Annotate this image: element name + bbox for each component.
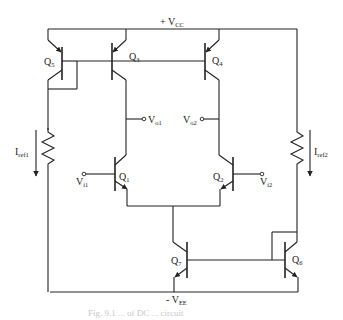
resistor-ref1: [42, 128, 54, 292]
iref1-label: Iref1: [15, 146, 29, 158]
iref2-label: Iref2: [314, 146, 328, 158]
emitter-tail-wire: [127, 206, 220, 242]
vee-rail: [50, 280, 298, 292]
q6-label: Q6: [292, 254, 303, 266]
resistor-ref2: [291, 128, 303, 232]
vi2-label: Vi2: [260, 176, 272, 188]
vo1-label: Vo1: [148, 114, 162, 126]
vcc-label: + VCC: [160, 16, 184, 28]
transistor-q3: [112, 29, 126, 155]
q7-label: Q7: [171, 255, 182, 267]
q4-label: Q4: [212, 55, 223, 67]
figure-caption: Fig. 9.1 ... of DC ... circuit: [88, 308, 184, 318]
transistor-q4: [205, 29, 219, 155]
q5-label: Q5: [44, 56, 54, 68]
q2-label: Q2: [213, 171, 223, 183]
q1-label: Q1: [119, 171, 129, 183]
vo2-label: Vo2: [183, 114, 197, 126]
transistor-q5: [48, 29, 77, 130]
vi1-label: Vi1: [76, 176, 88, 188]
transistor-q2: [219, 155, 264, 206]
vo1-terminal: [126, 117, 146, 121]
vo2-terminal: [200, 117, 219, 121]
vee-label: - VEE: [166, 294, 187, 306]
differential-amplifier-schematic: + VCC - VEE Q5 Q3 Q4: [0, 0, 343, 320]
